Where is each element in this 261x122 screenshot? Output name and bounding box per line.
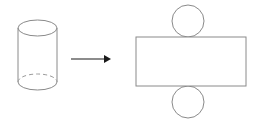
cylinder-shape <box>18 20 57 90</box>
transformation-arrow <box>71 55 111 63</box>
net-bottom-circle <box>172 86 204 118</box>
cylinder-net-diagram <box>0 0 261 122</box>
net-lateral-rectangle <box>136 37 246 86</box>
cylinder-top-ellipse <box>18 20 57 36</box>
cylinder-net-shape <box>136 5 246 118</box>
net-top-circle <box>172 5 204 37</box>
cylinder-body-fill <box>18 28 57 90</box>
arrow-head-icon <box>104 55 111 63</box>
diagram-canvas <box>0 0 261 122</box>
